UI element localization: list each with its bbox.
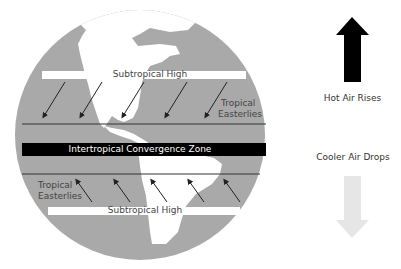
globe xyxy=(15,0,266,260)
upper-easterlies-line2: Easterlies xyxy=(218,109,262,120)
hot-air-rises-label: Hot Air Rises xyxy=(305,93,400,103)
arrow-down-icon xyxy=(336,176,369,238)
upper-subtropical-high-label: Subtropical High xyxy=(105,69,195,80)
lower-easterlies-line2: Easterlies xyxy=(38,191,82,202)
arrow-up-icon xyxy=(336,17,369,82)
lower-subtropical-high-label: Subtropical High xyxy=(100,205,190,216)
legend-graphics xyxy=(336,17,369,238)
trade-winds-diagram: Subtropical High Tropical Easterlies Int… xyxy=(0,0,401,269)
upper-tropical-easterlies-label: Tropical Easterlies xyxy=(218,98,262,120)
itcz-label: Intertropical Convergence Zone xyxy=(40,144,240,155)
lower-easterlies-line1: Tropical xyxy=(38,180,82,191)
diagram-graphic xyxy=(0,0,401,269)
cooler-air-drops-label: Cooler Air Drops xyxy=(303,152,401,162)
lower-tropical-easterlies-label: Tropical Easterlies xyxy=(38,180,82,202)
upper-easterlies-line1: Tropical xyxy=(218,98,262,109)
